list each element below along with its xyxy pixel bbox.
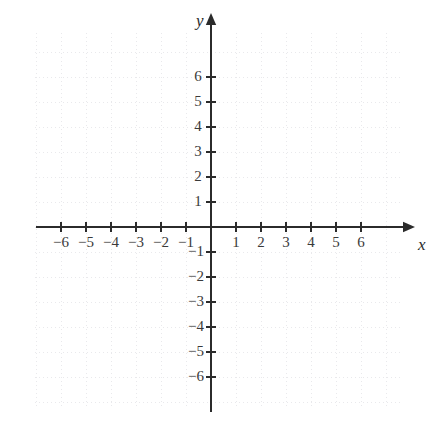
y-tick-label: −6	[176, 369, 216, 384]
y-tick-label: 1	[178, 194, 218, 209]
y-axis-arrowhead	[206, 13, 216, 25]
y-tick-label: −1	[176, 244, 216, 259]
y-tick-label: 6	[178, 69, 218, 84]
y-tick-label: 4	[178, 119, 218, 134]
coordinate-plane-figure: −6−5−4−3−2−1123456 654321−1−2−3−4−5−6 x …	[0, 0, 440, 436]
y-tick-label: −2	[176, 269, 216, 284]
y-tick-label: 3	[178, 144, 218, 159]
y-tick-label: −3	[176, 294, 216, 309]
y-tick-label: 5	[178, 94, 218, 109]
x-axis-arrowhead	[403, 222, 415, 232]
y-tick-label: 2	[178, 169, 218, 184]
y-tick-label: −4	[176, 319, 216, 334]
axis-lines	[36, 13, 415, 412]
y-tick-label: −5	[176, 344, 216, 359]
y-axis-label: y	[196, 12, 204, 29]
graph-svg	[0, 0, 440, 436]
grid-lines	[35, 33, 400, 408]
x-axis-label: x	[418, 236, 426, 253]
x-tick-label: 6	[341, 235, 381, 250]
